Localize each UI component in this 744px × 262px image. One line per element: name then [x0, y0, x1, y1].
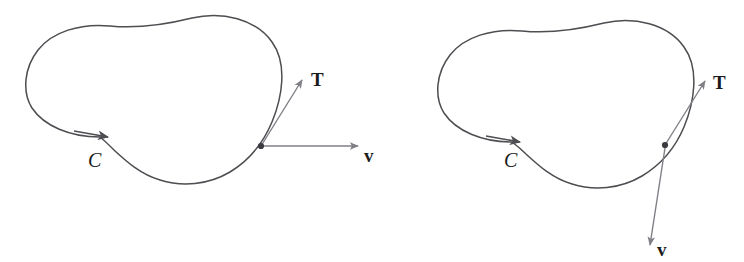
velocity-vector-right	[650, 148, 665, 245]
tangency-point-right	[662, 142, 668, 148]
tangent-vector-label-left: T	[311, 70, 324, 89]
curve-label-right: C	[504, 150, 517, 170]
figure-container: T v C T v C	[0, 0, 744, 262]
left-panel-group	[26, 16, 358, 184]
figure-drawing	[0, 0, 744, 262]
curve-label-left: C	[88, 150, 101, 170]
velocity-vector-label-right: v	[657, 240, 667, 259]
curve-path-right	[438, 21, 694, 188]
tangency-point-left	[258, 143, 264, 149]
right-panel-group	[438, 21, 705, 245]
tangent-vector-right	[665, 81, 705, 145]
velocity-vector-label-left: v	[364, 146, 374, 165]
tangent-vector-label-right: T	[713, 73, 726, 92]
curve-path-left	[26, 16, 282, 184]
